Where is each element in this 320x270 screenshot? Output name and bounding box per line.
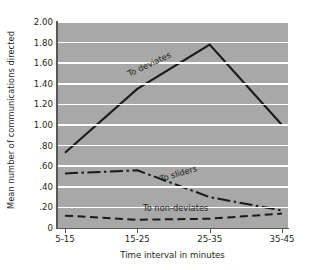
plot-area — [57, 22, 288, 228]
y-tick-label: .40 — [39, 182, 53, 192]
y-axis-tick-labels: 0.20.40.60.801.001.201.401.601.802.00 — [22, 22, 55, 228]
y-tick-label: 1.80 — [34, 38, 53, 48]
gridline — [57, 104, 288, 106]
series-line-to-deviates — [65, 45, 282, 153]
y-tick-label: 1.40 — [34, 79, 53, 89]
y-axis-title: Mean number of communications directed — [0, 0, 22, 240]
gridline — [57, 165, 288, 167]
series-line-to-non-deviates — [65, 214, 282, 220]
x-tick-mark — [137, 229, 138, 233]
x-tick-label: 35-45 — [270, 234, 295, 244]
y-tick-label: 1.60 — [34, 58, 53, 68]
x-tick-mark — [282, 229, 283, 233]
x-tick-mark — [65, 229, 66, 233]
y-tick-label: 1.20 — [34, 99, 53, 109]
y-tick-label: .80 — [39, 141, 53, 151]
y-tick-label: 2.00 — [34, 17, 53, 27]
x-tick-label: 25-35 — [197, 234, 222, 244]
gridline — [57, 186, 288, 188]
gridline — [57, 42, 288, 44]
y-tick-label: 0 — [48, 223, 53, 233]
gridline — [57, 124, 288, 126]
x-tick-label: 15-25 — [125, 234, 150, 244]
y-axis-title-text: Mean number of communications directed — [6, 31, 16, 209]
x-axis-title: Time interval in minutes — [57, 250, 288, 260]
x-tick-mark — [210, 229, 211, 233]
y-tick-label: .20 — [39, 202, 53, 212]
x-tick-label: 5-15 — [55, 234, 75, 244]
x-axis-line — [56, 228, 289, 230]
gridline — [57, 145, 288, 147]
y-axis-line — [56, 21, 58, 229]
series-label-to-non-deviates: To non-deviates — [143, 203, 208, 213]
gridline — [57, 21, 288, 23]
y-tick-label: .60 — [39, 161, 53, 171]
gridline — [57, 83, 288, 85]
figure: Mean number of communications directed 0… — [0, 0, 320, 270]
gridline — [57, 62, 288, 64]
y-tick-label: 1.00 — [34, 120, 53, 130]
